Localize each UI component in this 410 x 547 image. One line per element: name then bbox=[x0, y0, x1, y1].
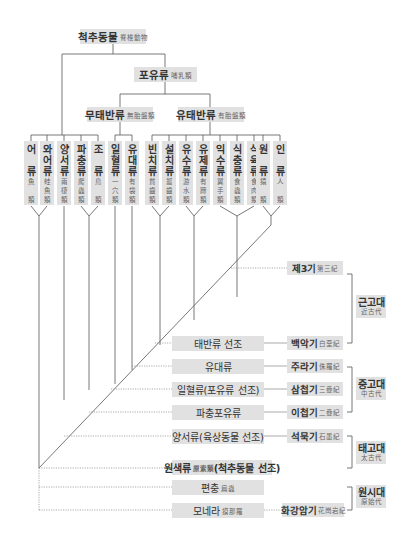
class-box: 파충류爬蟲類 bbox=[74, 141, 88, 205]
class-name-ko: 식충류 bbox=[233, 144, 242, 177]
ancestor-monera: 모네라摸那羅 bbox=[172, 503, 264, 518]
class-hanja-char: 人 bbox=[277, 178, 284, 187]
class-hanja-char: 鳥 bbox=[95, 178, 102, 187]
class-char: 치 bbox=[165, 155, 174, 166]
node-placentals-han: 有胎盤類 bbox=[218, 110, 246, 120]
era-cretaceous: 백악기白堊紀 bbox=[287, 336, 343, 350]
node-placentals-ko: 유태반류 bbox=[176, 107, 216, 122]
ancestor-monotreme: 일혈류(포유류 선조) bbox=[172, 382, 264, 397]
class-hanja-char: 有 bbox=[129, 178, 136, 187]
class-name-han: 人 類 bbox=[277, 178, 284, 205]
node-vertebrates-han: 脊椎動物 bbox=[120, 32, 148, 42]
class-box: 익수류翼手類 bbox=[213, 141, 227, 205]
class-box: 유대류有袋類 bbox=[125, 141, 139, 205]
class-hanja-char: 齒 bbox=[166, 187, 173, 196]
class-char bbox=[278, 155, 281, 166]
class-hanja-char: 類 bbox=[61, 196, 68, 205]
class-char: 유 bbox=[128, 144, 137, 155]
class-char: 파 bbox=[77, 144, 86, 155]
period-cenozoic-han: 近古代 bbox=[361, 308, 382, 316]
period-mesozoic-label: 중고대 bbox=[358, 379, 385, 390]
era-tertiary-label: 제3기 bbox=[292, 261, 317, 275]
class-hanja-char: 水 bbox=[183, 187, 190, 196]
class-char: 일 bbox=[111, 144, 120, 155]
class-name-ko: 유제류 bbox=[199, 144, 208, 177]
class-char: 어 bbox=[27, 144, 36, 155]
ancestor-amphibian-label: 양서류(육상동물 선조) bbox=[172, 429, 264, 444]
class-hanja-char bbox=[279, 187, 281, 196]
class-char: 류 bbox=[216, 166, 225, 177]
class-name-han: 齧齒類 bbox=[166, 178, 173, 205]
class-char: 류 bbox=[233, 166, 242, 177]
node-aplacentals-han: 無胎盤類 bbox=[127, 110, 155, 120]
class-name-han: 翼手類 bbox=[217, 178, 224, 205]
node-mammals-ko: 포유류 bbox=[139, 67, 169, 82]
class-hanja-char: 兩 bbox=[61, 178, 68, 187]
class-char: 서 bbox=[60, 155, 69, 166]
class-char: 식 bbox=[233, 144, 242, 155]
class-hanja-char: 齒 bbox=[149, 187, 156, 196]
class-char: 수 bbox=[182, 155, 191, 166]
class-char: 류 bbox=[259, 166, 268, 177]
class-name-han: 游水類 bbox=[183, 178, 190, 205]
class-name-ko: 원 류 bbox=[259, 144, 268, 177]
class-hanja-char: 蛙 bbox=[44, 178, 51, 187]
class-hanja-char: 類 bbox=[217, 196, 224, 205]
class-name-han: 食蟲類 bbox=[234, 178, 241, 205]
class-char: 혈 bbox=[111, 155, 120, 166]
era-granite-label: 화강암기 bbox=[281, 503, 317, 517]
class-name-han: 猿 類 bbox=[260, 178, 267, 205]
ancestor-marsupial-label: 유대류 bbox=[205, 359, 232, 374]
class-name-ko: 유수류 bbox=[182, 144, 191, 177]
class-name-han: 兩棲類 bbox=[61, 178, 68, 205]
period-cenozoic-label: 근고대 bbox=[358, 297, 385, 308]
class-name-ko: 인 류 bbox=[276, 144, 285, 177]
class-name-ko: 와어류 bbox=[43, 144, 52, 177]
class-hanja-char: 穴 bbox=[112, 187, 119, 196]
era-cretaceous-label: 백악기 bbox=[291, 336, 318, 350]
era-granite: 화강암기花崗岩紀 bbox=[282, 503, 344, 517]
class-char: 와 bbox=[43, 144, 52, 155]
class-hanja-char: 齧 bbox=[166, 178, 173, 187]
class-hanja-char: 魚 bbox=[44, 187, 51, 196]
class-char: 충 bbox=[233, 155, 242, 166]
class-name-ko: 어 류 bbox=[27, 144, 36, 177]
class-name-han: 有袋類 bbox=[129, 178, 136, 205]
ancestor-flatworm-han: 扁蟲 bbox=[221, 483, 235, 493]
class-box: 설치류齧齒類 bbox=[162, 141, 176, 205]
class-hanja-char: 貧 bbox=[149, 178, 156, 187]
class-char: 충 bbox=[77, 155, 86, 166]
class-char: 류 bbox=[111, 166, 120, 177]
node-aplacentals: 무태반류無胎盤類 bbox=[87, 107, 153, 122]
node-mammals: 포유류哺乳類 bbox=[134, 67, 197, 82]
class-char: 양 bbox=[60, 144, 69, 155]
class-box: 유제류有蹄類 bbox=[196, 141, 210, 205]
class-box: 일혈류一穴類 bbox=[108, 141, 122, 205]
class-box: 어 류魚 類 bbox=[24, 141, 38, 205]
class-name-ko: 일혈류 bbox=[111, 144, 120, 177]
class-hanja-char: 類 bbox=[277, 196, 284, 205]
ancestor-placental-label: 태반류 선조 bbox=[194, 336, 242, 351]
class-hanja-char: 翼 bbox=[217, 178, 224, 187]
ancestor-protochordate-han: 原索類 bbox=[193, 463, 214, 473]
ancestor-monera-label: 모네라 bbox=[193, 503, 220, 518]
period-mesozoic: 중고대中古代 bbox=[356, 377, 386, 400]
class-name-han: 魚 類 bbox=[28, 178, 35, 205]
class-hanja-char: 爬 bbox=[78, 178, 85, 187]
class-name-han: 一穴類 bbox=[112, 178, 119, 205]
class-name-ko: 설치류 bbox=[165, 144, 174, 177]
class-box: 원 류猿 類 bbox=[256, 141, 270, 205]
ancestor-amphibian: 양서류(육상동물 선조) bbox=[172, 429, 264, 444]
class-char: 류 bbox=[165, 166, 174, 177]
class-hanja-char: 類 bbox=[112, 196, 119, 205]
ancestor-protochordate-label: 원색류 bbox=[164, 460, 191, 475]
class-char: 유 bbox=[199, 144, 208, 155]
class-hanja-char: 蟲 bbox=[78, 187, 85, 196]
class-char: 류 bbox=[77, 166, 86, 177]
period-primordial: 원시대原始代 bbox=[356, 485, 386, 508]
class-char: 류 bbox=[60, 166, 69, 177]
class-hanja-char bbox=[30, 187, 32, 196]
class-name-han: 鳥 類 bbox=[95, 178, 102, 205]
ancestor-protochordate-suffix: (척추동물 선조) bbox=[214, 460, 281, 475]
class-box: 식충류食蟲類 bbox=[230, 141, 244, 205]
